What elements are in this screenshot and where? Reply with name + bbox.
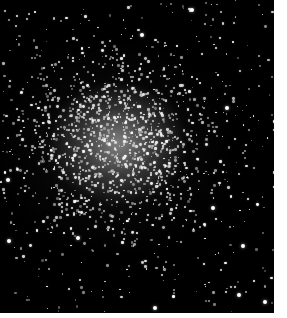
- star: [212, 18, 214, 20]
- star: [244, 221, 245, 222]
- star: [31, 145, 34, 148]
- star: [161, 214, 163, 216]
- star: [182, 73, 184, 75]
- star: [137, 122, 139, 124]
- star: [91, 152, 93, 154]
- star: [82, 169, 84, 171]
- star: [176, 204, 177, 205]
- star: [103, 118, 105, 120]
- star: [248, 129, 250, 131]
- star: [262, 232, 264, 234]
- star: [34, 129, 35, 130]
- star: [53, 17, 55, 19]
- star: [36, 229, 38, 231]
- star: [127, 97, 130, 100]
- star: [117, 164, 120, 167]
- star: [20, 130, 22, 132]
- star: [109, 58, 111, 60]
- star: [258, 85, 260, 87]
- star: [146, 180, 148, 182]
- star: [150, 80, 152, 82]
- star: [86, 162, 89, 165]
- star: [53, 89, 56, 92]
- star: [106, 264, 109, 267]
- star: [81, 93, 83, 95]
- star: [199, 82, 201, 84]
- star: [37, 77, 39, 79]
- star: [150, 174, 152, 176]
- star: [34, 221, 36, 223]
- star: [80, 286, 83, 289]
- star: [134, 117, 136, 119]
- star: [150, 132, 153, 135]
- star: [38, 146, 40, 148]
- star: [47, 228, 49, 230]
- star: [201, 53, 203, 55]
- star: [94, 173, 97, 176]
- star: [42, 122, 44, 124]
- star: [163, 268, 166, 271]
- star: [109, 214, 112, 217]
- star: [253, 167, 255, 169]
- star: [135, 213, 137, 215]
- star: [132, 170, 134, 172]
- star: [116, 186, 118, 188]
- star: [147, 108, 150, 111]
- star: [160, 112, 163, 115]
- star: [192, 87, 193, 88]
- star: [213, 130, 216, 133]
- star: [170, 95, 172, 97]
- star: [171, 173, 174, 176]
- star: [111, 215, 114, 218]
- star: [50, 157, 53, 160]
- star: [109, 40, 111, 42]
- star: [88, 170, 90, 172]
- star: [15, 25, 17, 27]
- star: [273, 171, 275, 173]
- star: [65, 208, 68, 211]
- star: [79, 89, 82, 92]
- star: [273, 186, 274, 188]
- star: [28, 13, 30, 15]
- star: [211, 87, 213, 89]
- star: [98, 109, 101, 112]
- star: [234, 138, 236, 140]
- star: [2, 151, 3, 152]
- star: [192, 150, 195, 153]
- star: [121, 69, 124, 72]
- star: [123, 238, 124, 239]
- star: [172, 186, 174, 188]
- star: [97, 27, 98, 28]
- star: [34, 147, 36, 149]
- star: [137, 180, 140, 183]
- star: [24, 185, 27, 188]
- star: [47, 308, 48, 309]
- star: [57, 97, 60, 100]
- star: [176, 101, 178, 103]
- star: [53, 187, 54, 188]
- star: [98, 208, 101, 211]
- star: [27, 82, 28, 83]
- star: [157, 41, 159, 43]
- star: [156, 133, 159, 136]
- star: [192, 122, 194, 124]
- star: [66, 177, 69, 180]
- star: [52, 135, 54, 137]
- star: [99, 134, 101, 136]
- star: [89, 140, 91, 142]
- star: [82, 86, 85, 89]
- star: [164, 180, 166, 182]
- star: [121, 231, 124, 234]
- star: [236, 162, 237, 163]
- star: [186, 133, 189, 136]
- star: [42, 114, 44, 116]
- star: [174, 171, 176, 173]
- star: [31, 57, 33, 59]
- star: [159, 108, 161, 110]
- star: [94, 184, 96, 186]
- star: [57, 128, 59, 130]
- star: [5, 115, 8, 118]
- star: [204, 23, 206, 25]
- star: [179, 84, 181, 86]
- star: [107, 151, 110, 154]
